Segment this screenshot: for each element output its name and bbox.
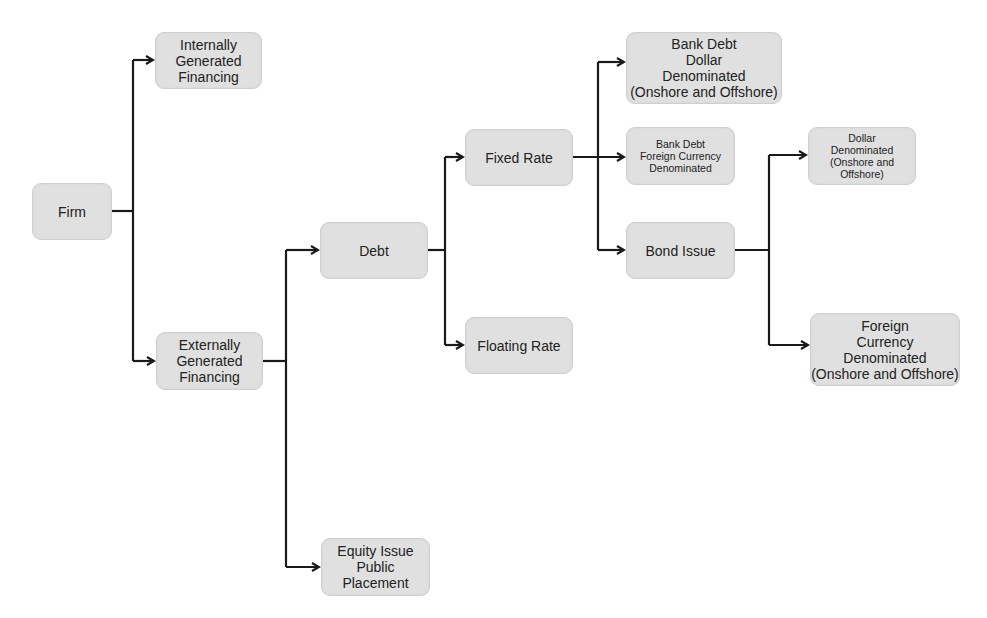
node-equity-issue: Equity Issue Public Placement xyxy=(321,538,430,596)
financing-diagram: Firm Internally Generated Financing Exte… xyxy=(0,0,987,618)
node-externally-generated-financing: Externally Generated Financing xyxy=(156,332,263,390)
node-bank-debt-dollar: Bank Debt Dollar Denominated (Onshore an… xyxy=(626,32,782,104)
connectors xyxy=(0,0,987,618)
node-debt: Debt xyxy=(320,222,428,279)
node-floating-rate: Floating Rate xyxy=(465,317,573,374)
node-fixed-rate: Fixed Rate xyxy=(465,129,573,186)
node-firm: Firm xyxy=(32,183,112,240)
node-bank-debt-foreign: Bank Debt Foreign Currency Denominated xyxy=(626,127,735,185)
node-bond-issue: Bond Issue xyxy=(626,222,735,279)
node-bond-dollar-denominated: Dollar Denominated (Onshore and Offshore… xyxy=(808,127,916,185)
node-internally-generated-financing: Internally Generated Financing xyxy=(155,32,262,89)
node-bond-foreign-currency: Foreign Currency Denominated (Onshore an… xyxy=(810,313,960,386)
